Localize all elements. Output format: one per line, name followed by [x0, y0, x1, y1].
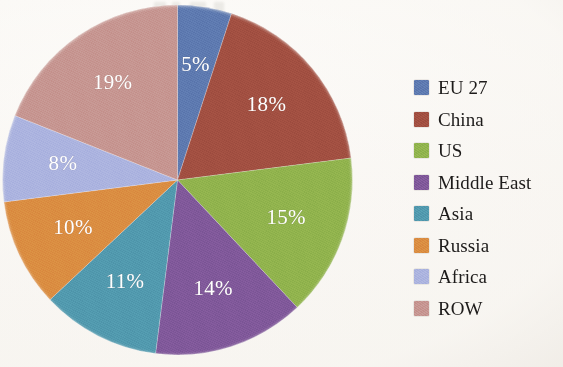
chart-legend: EU 27ChinaUSMiddle EastAsiaRussiaAfricaR…: [414, 72, 559, 324]
legend-swatch-icon: [414, 238, 429, 253]
pie-slice-label-row: 19%: [93, 70, 132, 94]
legend-swatch-icon: [414, 206, 429, 221]
legend-item-label: EU 27: [438, 78, 488, 97]
pie-slice-label-africa: 8%: [49, 151, 78, 175]
pie-slice-label-russia: 10%: [53, 215, 92, 239]
legend-swatch-icon: [414, 80, 429, 95]
legend-swatch-icon: [414, 269, 429, 284]
pie-slice-label-us: 15%: [266, 205, 305, 229]
legend-swatch-icon: [414, 301, 429, 316]
legend-item-label: ROW: [438, 299, 483, 318]
legend-item-label: Asia: [438, 204, 473, 223]
legend-item-row[interactable]: ROW: [414, 293, 559, 325]
legend-item-asia[interactable]: Asia: [414, 198, 559, 230]
legend-swatch-icon: [414, 143, 429, 158]
pie-chart: 5%18%15%14%11%10%8%19%: [2, 5, 353, 356]
chart-page: 5%18%15%14%11%10%8%19% EU 27ChinaUSMiddl…: [0, 0, 563, 367]
legend-item-label: US: [438, 141, 463, 160]
legend-item-china[interactable]: China: [414, 104, 559, 136]
legend-swatch-icon: [414, 175, 429, 190]
legend-item-us[interactable]: US: [414, 135, 559, 167]
legend-item-eu-27[interactable]: EU 27: [414, 72, 559, 104]
legend-item-russia[interactable]: Russia: [414, 230, 559, 262]
legend-item-label: Middle East: [438, 173, 531, 192]
legend-item-label: Russia: [438, 236, 489, 255]
pie-slice-group: [3, 5, 353, 355]
pie-slice-label-china: 18%: [247, 92, 286, 116]
legend-item-label: Africa: [438, 267, 487, 286]
pie-slice-label-eu-27: 5%: [181, 52, 210, 76]
legend-item-middle-east[interactable]: Middle East: [414, 167, 559, 199]
legend-item-label: China: [438, 110, 484, 129]
legend-swatch-icon: [414, 112, 429, 127]
pie-chart-svg: 5%18%15%14%11%10%8%19%: [2, 5, 353, 356]
legend-item-africa[interactable]: Africa: [414, 261, 559, 293]
pie-slice-label-middle-east: 14%: [193, 276, 232, 300]
pie-slice-label-asia: 11%: [106, 269, 145, 293]
